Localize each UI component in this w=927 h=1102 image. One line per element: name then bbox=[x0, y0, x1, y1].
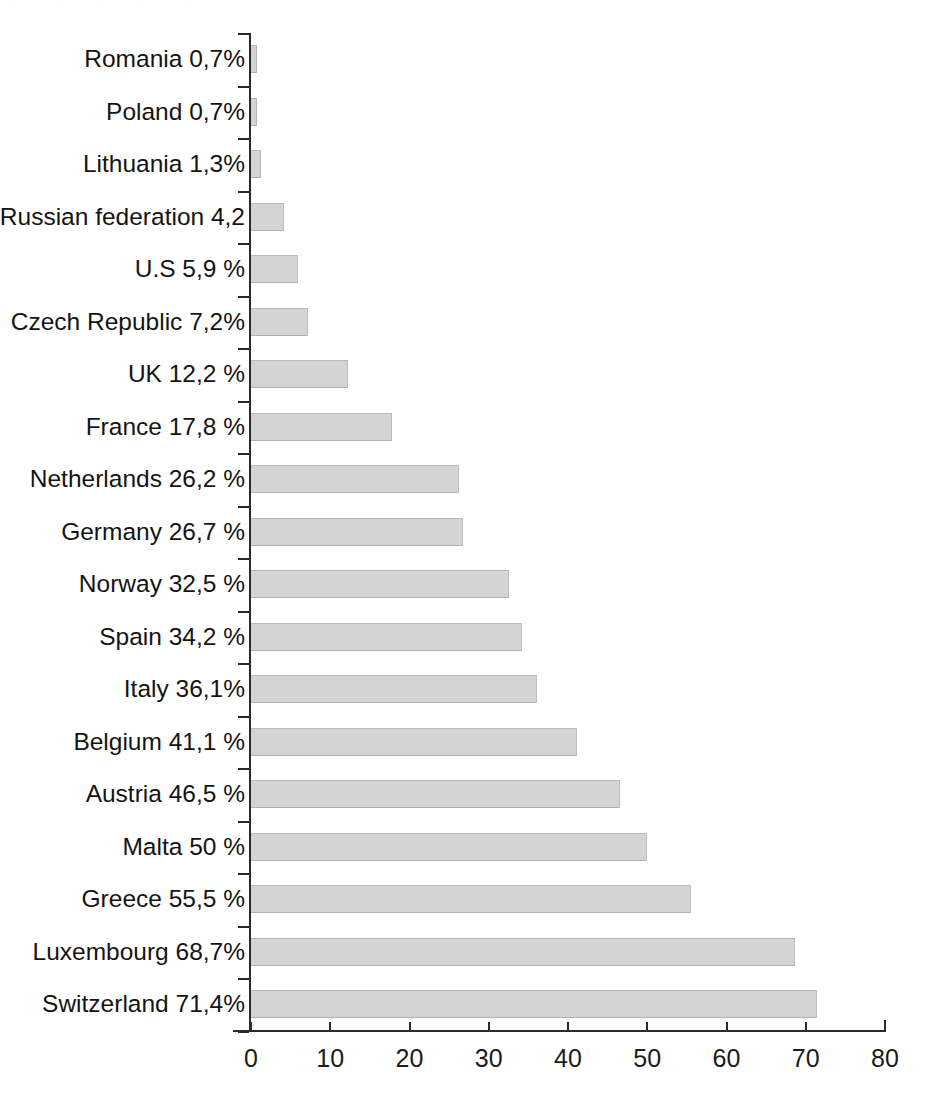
bar bbox=[251, 203, 284, 231]
x-axis-tick-label: 70 bbox=[776, 1044, 836, 1072]
category-label: Malta 50 % bbox=[0, 833, 245, 861]
x-axis-tick bbox=[409, 1022, 411, 1032]
x-axis-tick bbox=[488, 1022, 490, 1032]
x-axis-tick-label: 30 bbox=[459, 1044, 519, 1072]
category-label: Germany 26,7 % bbox=[0, 518, 245, 546]
category-label: Norway 32,5 % bbox=[0, 570, 245, 598]
y-axis-tick bbox=[238, 348, 249, 350]
y-axis-tick bbox=[238, 716, 249, 718]
x-axis-tick-label: 40 bbox=[538, 1044, 598, 1072]
x-axis-tick-label: 80 bbox=[855, 1044, 915, 1072]
bar bbox=[251, 413, 392, 441]
category-label: Greece 55,5 % bbox=[0, 885, 245, 913]
plot-area: Romania 0,7%Poland 0,7%Lithuania 1,3%Rus… bbox=[0, 0, 927, 1102]
x-axis-tick bbox=[726, 1022, 728, 1032]
category-label: UK 12,2 % bbox=[0, 360, 245, 388]
y-axis-tick bbox=[238, 191, 249, 193]
category-label: Lithuania 1,3% bbox=[0, 150, 245, 178]
category-label: Russian federation 4,2 bbox=[0, 203, 245, 231]
bar bbox=[251, 150, 261, 178]
y-axis-tick bbox=[238, 401, 249, 403]
x-axis-tick bbox=[646, 1022, 648, 1032]
category-label: Italy 36,1% bbox=[0, 675, 245, 703]
bar bbox=[251, 885, 691, 913]
y-axis-tick bbox=[238, 506, 249, 508]
x-axis-tick bbox=[884, 1022, 886, 1032]
category-label: Netherlands 26,2 % bbox=[0, 465, 245, 493]
bar bbox=[251, 255, 298, 283]
y-axis-tick bbox=[238, 138, 249, 140]
x-axis-tick-label: 0 bbox=[221, 1044, 281, 1072]
y-axis-tick bbox=[238, 663, 249, 665]
bar bbox=[251, 990, 817, 1018]
category-label: U.S 5,9 % bbox=[0, 255, 245, 283]
category-label: Spain 34,2 % bbox=[0, 623, 245, 651]
category-label: Luxembourg 68,7% bbox=[0, 938, 245, 966]
bar-chart: ⌐ ¬ ⌐ ¬ ⌐ ¬ ⌐ ¬ ⌐ ¬ Romania 0,7%Poland 0… bbox=[0, 0, 927, 1102]
bar bbox=[251, 360, 348, 388]
y-axis-tick bbox=[238, 33, 249, 35]
y-axis-tick bbox=[238, 86, 249, 88]
y-axis-tick bbox=[238, 243, 249, 245]
y-axis-tick bbox=[238, 611, 249, 613]
bar bbox=[251, 45, 257, 73]
bar bbox=[251, 938, 795, 966]
x-axis-tick bbox=[567, 1022, 569, 1032]
bar bbox=[251, 98, 257, 126]
category-label: Poland 0,7% bbox=[0, 98, 245, 126]
bar bbox=[251, 728, 577, 756]
category-label: Czech Republic 7,2% bbox=[0, 308, 245, 336]
bar bbox=[251, 675, 537, 703]
x-axis-tick bbox=[805, 1022, 807, 1032]
category-label: France 17,8 % bbox=[0, 413, 245, 441]
x-axis-tick-label: 10 bbox=[300, 1044, 360, 1072]
bar bbox=[251, 308, 308, 336]
bar bbox=[251, 570, 509, 598]
x-axis-tick bbox=[250, 1022, 252, 1032]
bar bbox=[251, 780, 620, 808]
x-axis-tick bbox=[329, 1022, 331, 1032]
y-axis-tick bbox=[238, 926, 249, 928]
y-axis-tick bbox=[238, 978, 249, 980]
category-label: Romania 0,7% bbox=[0, 45, 245, 73]
bar bbox=[251, 518, 463, 546]
y-axis-tick bbox=[238, 1031, 249, 1033]
category-label: Austria 46,5 % bbox=[0, 780, 245, 808]
category-label: Switzerland 71,4% bbox=[0, 990, 245, 1018]
y-axis-tick bbox=[238, 296, 249, 298]
bar bbox=[251, 465, 459, 493]
x-axis-tick-label: 20 bbox=[380, 1044, 440, 1072]
bar bbox=[251, 623, 522, 651]
y-axis-tick bbox=[238, 558, 249, 560]
y-axis-tick bbox=[238, 873, 249, 875]
category-label: Belgium 41,1 % bbox=[0, 728, 245, 756]
x-axis-tick-label: 60 bbox=[697, 1044, 757, 1072]
y-axis-tick bbox=[238, 821, 249, 823]
y-axis-tick bbox=[238, 453, 249, 455]
x-axis-tick-label: 50 bbox=[617, 1044, 677, 1072]
y-axis-tick bbox=[238, 768, 249, 770]
bar bbox=[251, 833, 647, 861]
